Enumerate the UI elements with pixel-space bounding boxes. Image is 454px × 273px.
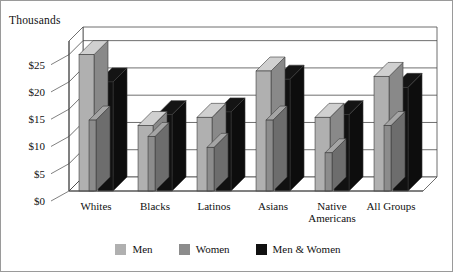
tick-label-leader bbox=[51, 136, 69, 146]
y-axis-tick-label: $25 bbox=[11, 59, 45, 71]
legend-label: Men & Women bbox=[273, 244, 341, 255]
chart-frame: Thousands MenWomenMen & Women $0$5$10$15… bbox=[0, 0, 453, 272]
tick-label-leader bbox=[51, 164, 69, 174]
legend-label: Women bbox=[196, 244, 230, 255]
bar-women bbox=[89, 106, 110, 191]
y-axis-tick-label: $0 bbox=[11, 195, 45, 207]
y-axis-tick-label: $15 bbox=[11, 113, 45, 125]
tick-label-leader bbox=[51, 82, 69, 92]
x-axis-category-label: All Groups bbox=[346, 200, 436, 212]
bar-chart-plot bbox=[1, 1, 454, 273]
legend-item[interactable]: Women bbox=[179, 244, 230, 255]
tick-label-leader bbox=[51, 109, 69, 119]
x-axis-category-line: All Groups bbox=[346, 200, 436, 212]
chart-legend: MenWomenMen & Women bbox=[1, 244, 454, 255]
legend-label: Men bbox=[132, 244, 152, 255]
legend-item[interactable]: Men bbox=[115, 244, 152, 255]
legend-item[interactable]: Men & Women bbox=[256, 244, 341, 255]
y-axis-tick-label: $10 bbox=[11, 140, 45, 152]
legend-swatch-icon bbox=[256, 244, 267, 255]
y-axis-tick-label: $20 bbox=[11, 86, 45, 98]
bar-women bbox=[266, 106, 287, 191]
legend-swatch-icon bbox=[115, 244, 126, 255]
legend-swatch-icon bbox=[179, 244, 190, 255]
tick-label-leader bbox=[51, 55, 69, 65]
x-axis-category-line: Americans bbox=[287, 212, 377, 224]
y-axis-tick-label: $5 bbox=[11, 168, 45, 180]
bar-women bbox=[384, 112, 405, 191]
